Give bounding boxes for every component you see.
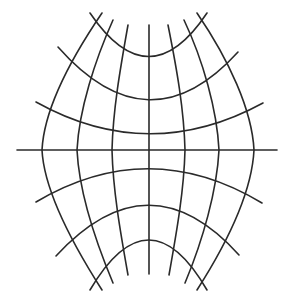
meridian-left-2	[77, 20, 113, 283]
parallel-south-2	[56, 205, 239, 256]
meridian-right-2	[184, 20, 219, 283]
graticule-svg	[0, 0, 284, 302]
graticule-diagram	[0, 0, 284, 302]
parallel-north-2	[58, 47, 238, 100]
meridian-far-left	[42, 13, 102, 290]
meridian-far-right	[197, 13, 254, 290]
meridians-group	[42, 13, 254, 290]
